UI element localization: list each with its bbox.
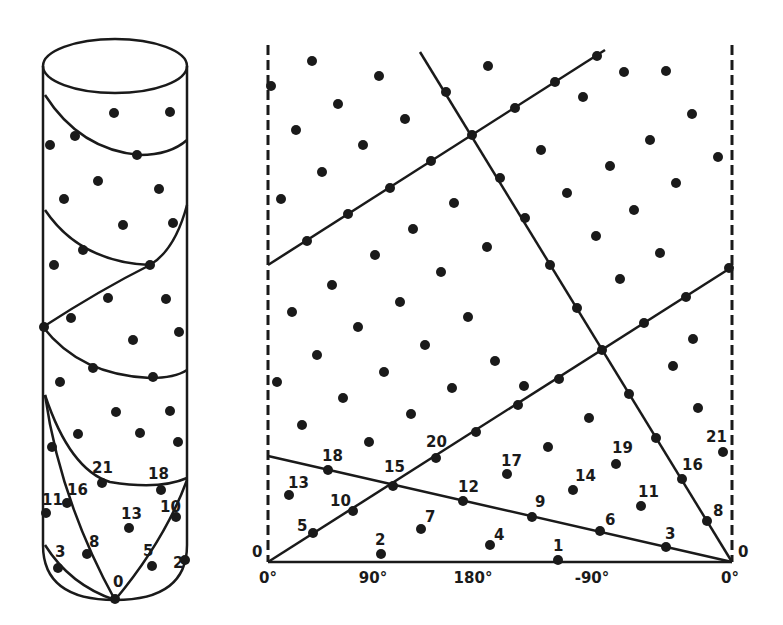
cylinder-label: 0	[113, 573, 123, 591]
cylinder-label: 18	[148, 465, 169, 483]
point-label: 2	[375, 531, 385, 549]
x-tick-label: 0°	[721, 569, 739, 587]
point-label: 1	[553, 537, 563, 555]
point-label: 19	[612, 439, 633, 457]
point-label: 18	[322, 447, 343, 465]
point-label: 12	[458, 478, 479, 496]
point-label: 9	[535, 493, 545, 511]
x-tick-label: 0°	[259, 569, 277, 587]
cylinder-label: 5	[143, 542, 153, 560]
point-label: 20	[426, 433, 447, 451]
helix-curve	[45, 95, 187, 155]
point-label: 14	[575, 467, 596, 485]
cylinder-label: 3	[55, 543, 65, 561]
point-label: 21	[706, 428, 727, 446]
helix-curve	[43, 265, 150, 327]
cylinder-label: 10	[160, 498, 181, 516]
point-label: 3	[665, 525, 675, 543]
cylinder-top-ellipse	[43, 39, 187, 93]
edge-label: 0	[738, 543, 748, 561]
parastichy-line-5	[268, 267, 732, 562]
cylinder-label: 2	[173, 554, 183, 572]
cylinder-label: 16	[67, 481, 88, 499]
x-tick-label: 90°	[359, 569, 387, 587]
cylinder-label: 8	[89, 533, 99, 551]
cylinder-points	[39, 107, 190, 604]
point-label: 4	[494, 526, 504, 544]
point-label: 7	[425, 508, 435, 526]
x-tick-label: 180°	[454, 569, 493, 587]
phyllotaxis-figure: 21 18 11 16 13 10 8 3 5 2 0	[0, 0, 783, 625]
point-label: 15	[384, 458, 405, 476]
point-label: 13	[288, 474, 309, 492]
point-label: 16	[682, 456, 703, 474]
unrolled-lattice: 0° 90° 180° -90° 0° 0 0 1 2 3 4 5 6 7 8 …	[252, 45, 748, 587]
lattice-points	[266, 51, 734, 565]
point-label: 8	[713, 502, 723, 520]
cylinder-label: 21	[92, 459, 113, 477]
x-tick-label: -90°	[575, 569, 610, 587]
point-label: 5	[297, 517, 307, 535]
point-label: 10	[330, 492, 351, 510]
cylinder-label: 11	[42, 491, 63, 509]
point-label: 17	[501, 452, 522, 470]
cylinder-label: 13	[121, 505, 142, 523]
point-label: 6	[605, 511, 615, 529]
helix-curve	[45, 205, 187, 265]
point-label: 11	[638, 483, 659, 501]
edge-label: 0	[252, 543, 262, 561]
helix-curve	[43, 327, 187, 378]
